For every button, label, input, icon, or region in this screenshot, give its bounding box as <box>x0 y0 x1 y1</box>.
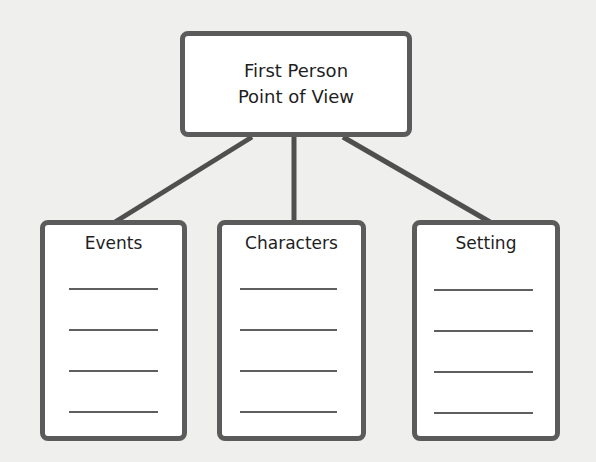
write-line[interactable] <box>240 288 337 290</box>
connector-setting <box>343 137 490 222</box>
write-line[interactable] <box>434 330 533 332</box>
root-title-line1: First Person <box>244 58 348 84</box>
write-line[interactable] <box>240 411 337 413</box>
write-line[interactable] <box>434 412 533 414</box>
connector-events <box>115 137 252 222</box>
write-line[interactable] <box>240 370 337 372</box>
characters-box: Characters <box>217 220 366 441</box>
write-line[interactable] <box>69 288 158 290</box>
write-line[interactable] <box>69 411 158 413</box>
characters-title: Characters <box>222 233 361 253</box>
write-line[interactable] <box>434 289 533 291</box>
write-line[interactable] <box>69 370 158 372</box>
events-title: Events <box>45 233 182 253</box>
write-line[interactable] <box>69 329 158 331</box>
write-line[interactable] <box>434 371 533 373</box>
write-line[interactable] <box>240 329 337 331</box>
root-node-first-person-pov: First Person Point of View <box>180 31 412 137</box>
setting-title: Setting <box>417 233 555 253</box>
events-box: Events <box>40 220 187 441</box>
root-title-line2: Point of View <box>238 84 354 110</box>
setting-box: Setting <box>412 220 560 441</box>
